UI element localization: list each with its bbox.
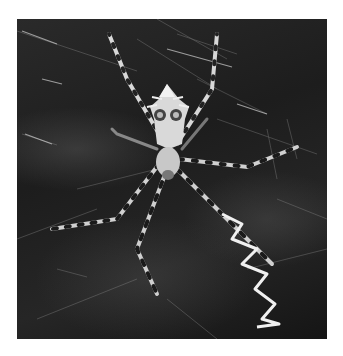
web-highlights xyxy=(22,31,267,144)
spider-illustration xyxy=(17,19,327,339)
web-stabilimentum xyxy=(222,214,279,327)
spider-photo xyxy=(17,19,327,339)
web-strands xyxy=(17,19,327,339)
spider-abdomen xyxy=(147,84,189,149)
